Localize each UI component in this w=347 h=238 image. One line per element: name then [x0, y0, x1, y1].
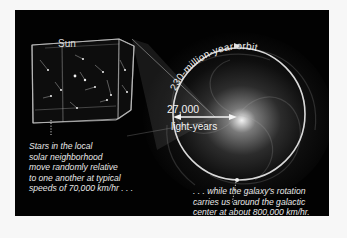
distance-unit: light-years	[171, 121, 217, 132]
caption-line: carries us around the galactic	[193, 197, 310, 208]
caption-line: . . . while the galaxy's rotation	[193, 186, 310, 197]
solar-neighborhood-cube	[32, 39, 134, 123]
orbit-label: 230-million-year orbit	[168, 40, 259, 92]
caption-line: Stars in the local	[29, 141, 133, 152]
distance-value: 27,000	[167, 103, 199, 115]
sun-label: Sun	[58, 38, 76, 49]
caption-line: to one another at typical	[29, 173, 133, 184]
caption-line: speeds of 70,000 km/hr . . .	[29, 183, 133, 194]
local-motion-caption: Stars in the local solar neighborhood mo…	[29, 141, 133, 194]
sun-position-marker	[235, 178, 239, 182]
galactic-motion-caption: . . . while the galaxy's rotation carrie…	[193, 186, 310, 216]
galaxy-diagram-panel: 230-million-year orbit Sun 27,000 light-…	[15, 10, 329, 216]
caption-line: move randomly relative	[29, 162, 133, 173]
caption-line: solar neighborhood	[29, 152, 133, 163]
caption-line: center at about 800,000 km/hr.	[193, 207, 310, 216]
